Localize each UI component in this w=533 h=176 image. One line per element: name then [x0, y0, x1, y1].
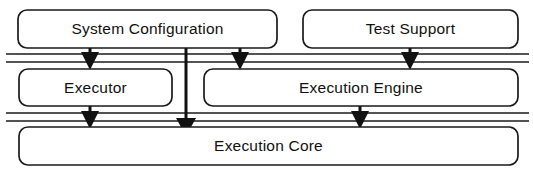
- connector-execution-engine-to-execution-core: [351, 106, 369, 129]
- diagram-canvas: System Configuration Test Support Execut…: [0, 0, 533, 176]
- connector-system-configuration-to-execution-core: [176, 48, 196, 136]
- node-test-support-label: Test Support: [366, 20, 456, 37]
- architecture-diagram: System Configuration Test Support Execut…: [0, 0, 533, 176]
- connector-executor-to-execution-core: [81, 106, 99, 129]
- arrowhead-down-icon: [401, 52, 419, 70]
- arrowhead-down-icon: [231, 52, 249, 70]
- node-system-configuration[interactable]: System Configuration: [18, 10, 277, 48]
- arrowhead-down-icon: [81, 52, 99, 70]
- node-executor-label: Executor: [64, 79, 127, 96]
- connector-test-support-to-execution-engine: [401, 48, 419, 70]
- node-execution-engine-label: Execution Engine: [299, 79, 423, 96]
- connector-system-configuration-to-executor: [81, 48, 99, 70]
- node-execution-core[interactable]: Execution Core: [19, 127, 518, 165]
- connector-system-configuration-to-execution-engine: [231, 48, 249, 70]
- node-execution-engine[interactable]: Execution Engine: [204, 69, 518, 106]
- node-system-configuration-label: System Configuration: [71, 20, 223, 37]
- node-execution-core-label: Execution Core: [214, 137, 323, 154]
- node-executor[interactable]: Executor: [19, 69, 172, 106]
- node-test-support[interactable]: Test Support: [303, 10, 518, 48]
